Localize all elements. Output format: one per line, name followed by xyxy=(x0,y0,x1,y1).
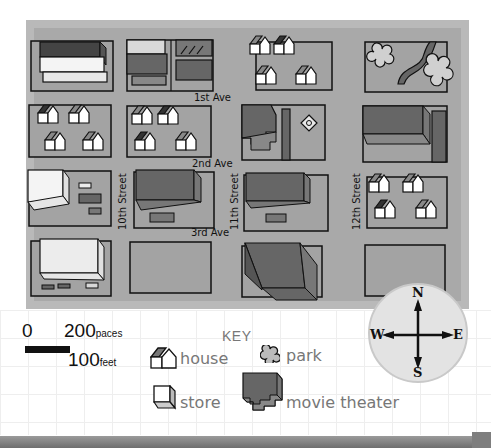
label-2nd-ave: 2nd Ave xyxy=(192,158,233,169)
block-r3c1 xyxy=(28,170,111,226)
park-icon xyxy=(260,345,280,363)
scale-paces-unit: paces xyxy=(96,328,123,339)
compass-west: W xyxy=(370,327,385,342)
key-label-park: park xyxy=(286,346,322,365)
block-r4c3 xyxy=(242,243,322,300)
block-r2c1 xyxy=(29,105,111,157)
town-map: 1st Ave 2nd Ave 3rd Ave 10th Street 11th… xyxy=(26,20,469,309)
compass-north: N xyxy=(412,285,424,300)
scale-feet-value: 100 xyxy=(68,349,100,370)
block-r3c4 xyxy=(367,174,447,228)
store-icon xyxy=(153,385,177,411)
scale-paces-value: 200 xyxy=(64,320,96,341)
house-icon xyxy=(150,346,178,370)
map-drawing: 1st Ave 2nd Ave 3rd Ave 10th Street 11th… xyxy=(26,20,469,309)
label-3rd-ave: 3rd Ave xyxy=(191,227,229,238)
key-label-movie-theater: movie theater xyxy=(286,393,399,412)
block-r1c3 xyxy=(250,36,332,90)
movie-theater-icon xyxy=(242,372,286,412)
block-r1c2 xyxy=(127,40,213,91)
map-scale: 0 200paces 100feet xyxy=(0,320,140,380)
compass-rose: N S E W xyxy=(368,283,468,383)
bottom-bar-end xyxy=(472,432,491,448)
block-r1c4 xyxy=(365,42,453,92)
block-r4c1 xyxy=(31,239,111,296)
block-r2c3 xyxy=(242,105,325,160)
scale-bar xyxy=(25,346,70,353)
scale-zero: 0 xyxy=(22,320,33,342)
label-1st-ave: 1st Ave xyxy=(194,92,231,103)
key-label-house: house xyxy=(180,349,228,368)
block-r2c2 xyxy=(127,106,211,157)
scale-feet-unit: feet xyxy=(100,357,117,368)
label-11th-street: 11th Street xyxy=(229,173,240,230)
block-r4c2 xyxy=(130,242,211,293)
compass-south: S xyxy=(413,365,422,380)
key-label-store: store xyxy=(180,393,220,412)
scale-paces: 200paces xyxy=(64,320,122,342)
label-12th-street: 12th Street xyxy=(351,173,362,230)
block-r2c4 xyxy=(363,106,447,162)
key-title: KEY xyxy=(222,328,252,344)
block-r1c1 xyxy=(31,41,113,91)
compass-east: E xyxy=(453,327,463,342)
block-r3c2 xyxy=(134,170,214,228)
label-10th-street: 10th Street xyxy=(117,173,128,230)
bottom-bar xyxy=(0,436,491,448)
block-r3c3 xyxy=(244,173,328,231)
scale-feet: 100feet xyxy=(68,349,116,371)
